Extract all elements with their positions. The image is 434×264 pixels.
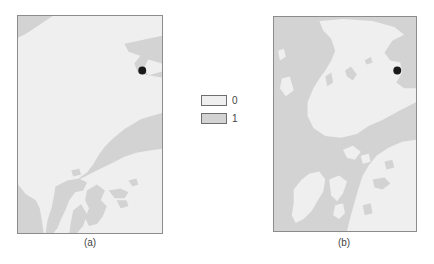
legend-swatch-1 [201,113,227,124]
panel-caption-a: (a) [70,237,110,248]
legend-label-0: 0 [232,95,238,106]
classification-map-b [274,17,416,231]
legend-label-1: 1 [232,113,238,124]
classification-map-a [18,16,162,233]
panel-caption-b: (b) [324,237,364,248]
location-marker-b [393,67,401,75]
legend-swatch-0 [201,95,227,106]
location-marker-a [138,67,146,75]
map-panel-a [17,15,163,234]
map-panel-b [273,16,417,232]
